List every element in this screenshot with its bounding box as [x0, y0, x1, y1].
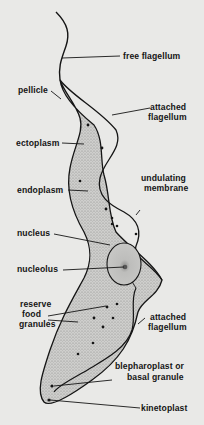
nucleus [107, 243, 141, 285]
label-nucleolus: nucleolus [17, 265, 58, 275]
cell-body [40, 80, 162, 404]
label-endoplasm: endoplasm [17, 186, 63, 196]
label-nucleus: nucleus [17, 229, 50, 239]
label-blepharoplast-1: blepharoplast or [115, 362, 184, 372]
label-kinetoplast: kinetoplast [141, 404, 187, 414]
label-pellicle: pellicle [18, 86, 48, 96]
blepharoplast [50, 384, 53, 387]
free-flagellum [56, 12, 68, 80]
trypanosome-diagram: free flagellum pellicle attached flagell… [0, 0, 204, 425]
label-attached-flagellum-bottom-2: flagellum [148, 323, 187, 333]
label-ectoplasm: ectoplasm [16, 139, 59, 149]
label-attached-flagellum-top-2: flagellum [148, 113, 187, 123]
label-reserve-food-granules-3: granules [19, 320, 56, 330]
label-free-flagellum: free flagellum [123, 52, 180, 62]
label-blepharoplast-2: basal granule [127, 373, 184, 383]
label-undulating-membrane-2: membrane [144, 184, 188, 194]
